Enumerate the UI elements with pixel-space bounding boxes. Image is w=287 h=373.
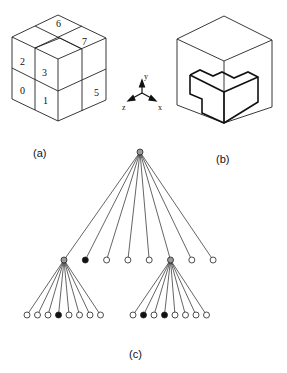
tree-leaf-node-white bbox=[183, 312, 189, 318]
cell-label-3: 3 bbox=[42, 67, 47, 78]
tree-leaf-node-black bbox=[56, 312, 62, 318]
tree-leaf-node-white bbox=[66, 312, 72, 318]
cell-label-6: 6 bbox=[56, 18, 61, 29]
tree-edge bbox=[85, 152, 140, 260]
tree-leaf-node-white bbox=[45, 312, 51, 318]
axis-label-y: y bbox=[144, 72, 148, 81]
y-axis-arrow-icon bbox=[140, 80, 145, 87]
tree-edge bbox=[144, 260, 171, 315]
panel-a-cell-labels: 6 7 2 3 0 1 5 bbox=[20, 18, 99, 106]
tree-leaf-node-white bbox=[193, 312, 199, 318]
tree-edge bbox=[133, 260, 171, 315]
tree-edge bbox=[107, 152, 140, 260]
tree-leaf-node-black bbox=[162, 312, 168, 318]
tree-leaf-node-white bbox=[87, 312, 93, 318]
cell-label-2: 2 bbox=[20, 56, 25, 67]
tree-leaf-node-white bbox=[35, 312, 41, 318]
tree-edge bbox=[165, 260, 171, 315]
tree-edge bbox=[140, 152, 213, 260]
tree-leaf-node-white bbox=[77, 312, 83, 318]
tree-nodes bbox=[24, 149, 216, 318]
tree-leaf-node-white bbox=[98, 312, 104, 318]
tree-level1-node-white bbox=[104, 257, 110, 263]
tree-level1-node-white bbox=[189, 257, 195, 263]
tree-edges bbox=[27, 152, 213, 315]
tree-leaf-node-white bbox=[24, 312, 30, 318]
axis-triad bbox=[128, 80, 156, 101]
tree-leaf-node-white bbox=[151, 312, 157, 318]
tree-level1-node-gray bbox=[61, 257, 67, 263]
panel-label-a: (a) bbox=[33, 147, 46, 159]
tree-edge bbox=[128, 152, 140, 260]
tree-leaf-node-black bbox=[141, 312, 147, 318]
tree-edge bbox=[64, 152, 140, 260]
z-axis-arrow-icon bbox=[128, 96, 135, 102]
tree-level1-node-white bbox=[210, 257, 216, 263]
tree-edge bbox=[171, 260, 207, 315]
panel-label-b: (b) bbox=[216, 153, 229, 165]
tree-level1-node-gray bbox=[168, 257, 174, 263]
tree-level1-node-black bbox=[82, 257, 88, 263]
x-axis-arrow-icon bbox=[149, 96, 156, 102]
tree-edge bbox=[154, 260, 171, 315]
cell-label-1: 1 bbox=[43, 95, 48, 106]
tree-leaf-node-white bbox=[204, 312, 210, 318]
axis-label-z: z bbox=[122, 103, 126, 112]
tree-level1-node-white bbox=[146, 257, 152, 263]
octree-figure: 6 7 2 3 0 1 5 y z x (a) (b) (c) bbox=[0, 0, 287, 373]
tree-edge bbox=[64, 260, 101, 315]
cell-label-7: 7 bbox=[82, 36, 87, 47]
tree-leaf-node-white bbox=[130, 312, 136, 318]
cell-label-0: 0 bbox=[20, 85, 25, 96]
panel-label-c: (c) bbox=[129, 348, 142, 360]
tree-level1-node-white bbox=[125, 257, 131, 263]
panel-a-cube bbox=[12, 15, 106, 121]
axis-label-x: x bbox=[158, 103, 162, 112]
tree-edge bbox=[27, 260, 64, 315]
cell-label-5: 5 bbox=[94, 87, 99, 98]
tree-leaf-node-white bbox=[172, 312, 178, 318]
tree-root-node-gray bbox=[137, 149, 143, 155]
